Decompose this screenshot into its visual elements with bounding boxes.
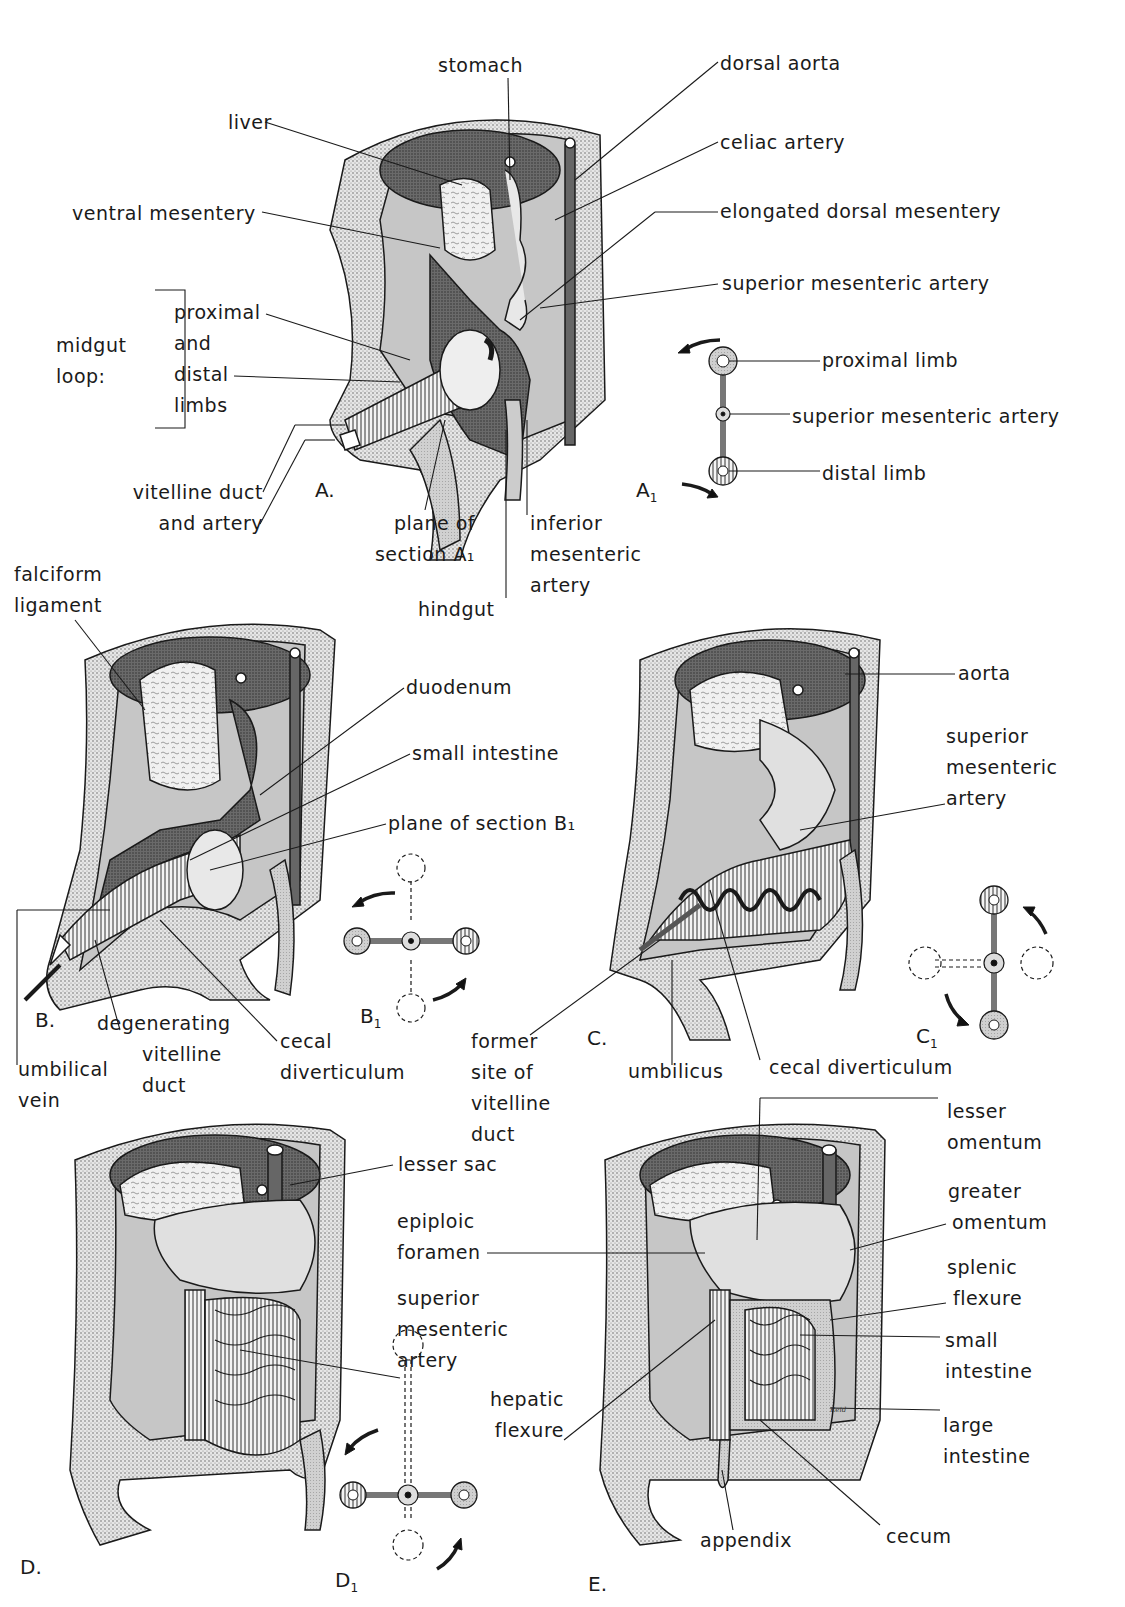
label-proximal-distal-limbs: proximaland distallimbs [174,297,260,421]
label-plane-of-section-b1: plane of section B₁ [388,808,576,839]
rotation-arrow-icon [437,1545,458,1569]
panel-label-a: A. [315,478,335,502]
label-superior-mesenteric-artery-c: superiormesentericartery [946,721,1058,814]
label-cecal-diverticulum-c: cecal diverticulum [769,1052,953,1083]
label-superior-mesenteric-artery-a: superior mesenteric artery [722,268,989,299]
label-appendix: appendix [700,1525,792,1556]
label-liver: liver [228,107,272,138]
label-small-intestine-e: smallintestine [945,1325,1032,1387]
panel-label-b1: B1 [360,1004,381,1031]
label-cecal-diverticulum-b: cecaldiverticulum [280,1026,405,1088]
panel-label-c1: C1 [916,1024,938,1051]
label-small-intestine-b: small intestine [412,738,559,769]
label-stomach: stomach [438,50,523,81]
label-large-intestine: largeintestine [943,1410,1030,1472]
label-splenic-flexure: splenicflexure [947,1252,1022,1314]
panel-label-b: B. [35,1008,55,1032]
label-umbilicus: umbilicus [628,1056,723,1087]
label-greater-omentum: greateromentum [948,1176,1047,1238]
label-proximal-limb: proximal limb [822,345,958,376]
label-umbilical-vein: umbilicalvein [18,1054,108,1116]
rotation-arrow-icon [350,1430,378,1448]
label-hindgut: hindgut [418,594,494,625]
panel-label-e: E. [588,1572,607,1596]
label-lesser-omentum: lesseromentum [947,1096,1042,1158]
panel-label-d: D. [20,1555,42,1579]
label-degenerating-vitelline-duct: degenerating vitelline duct [97,1008,239,1101]
label-superior-mesenteric-artery-a1: superior mesenteric artery [792,401,1059,432]
panel-c-drawing [610,629,880,1040]
rotation-arrow-icon [682,484,712,494]
panel-label-a1: A1 [636,478,657,505]
label-ventral-mesentery: ventral mesentery [72,198,256,229]
label-celiac-artery: celiac artery [720,127,845,158]
panel-c1-section [909,886,1053,1039]
label-distal-limb: distal limb [822,458,926,489]
label-hepatic-flexure: hepaticflexure [484,1384,564,1446]
label-elongated-dorsal-mesentery: elongated dorsal mesentery [720,196,1001,227]
panel-label-c: C. [587,1026,607,1050]
label-cecum: cecum [886,1521,952,1552]
panel-a-drawing [330,120,605,560]
label-epiploic-foramen: epiploicforamen [397,1206,481,1268]
label-midgut-loop: midgutloop: [56,330,126,392]
rotation-arrow-icon [358,893,395,903]
rotation-arrow-icon [433,984,462,1000]
panel-e-drawing [600,1124,885,1545]
label-dorsal-aorta: dorsal aorta [720,48,841,79]
label-vitelline-duct-artery: vitelline ductand artery [128,477,263,539]
label-falciform-ligament: falciformligament [14,559,102,621]
panel-label-d1: D1 [335,1568,358,1595]
label-lesser-sac: lesser sac [398,1149,497,1180]
panel-d-drawing [70,1124,345,1545]
label-aorta: aorta [958,658,1011,689]
label-inferior-mesenteric-artery: inferiormesentericartery [530,508,642,601]
panel-b-drawing [25,624,335,1010]
artist-signature: Reid [829,1406,847,1414]
panel-b1-section [344,854,479,1022]
rotation-arrow-icon [1030,912,1046,934]
label-superior-mesenteric-artery-d: superiormesentericartery [397,1283,509,1376]
label-duodenum: duodenum [406,672,512,703]
label-plane-of-section-a1: plane ofsection A₁ [367,508,475,570]
label-former-site-vitelline-duct: formersite of vitellineduct [471,1026,551,1150]
